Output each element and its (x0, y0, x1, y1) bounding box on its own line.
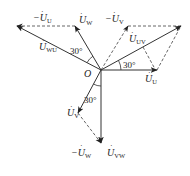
label-neg-u-v: · −UV (105, 8, 124, 25)
angle-label-vw: 30° (84, 95, 97, 105)
angle-arcs (87, 56, 121, 86)
angle-arc-vw-v (94, 84, 102, 86)
angle-arc-wu-w (87, 56, 93, 63)
svg-text:−UV: −UV (105, 13, 124, 25)
label-u-u: · UU (145, 68, 157, 85)
label-neg-u-u: · −UU (33, 7, 52, 24)
label-u-uv: · UUV (129, 28, 146, 45)
angle-label-wu: 30° (70, 46, 83, 56)
label-u-w: · UW (79, 9, 93, 26)
svg-text:UW: UW (79, 14, 93, 26)
label-u-vw: · UVW (107, 141, 126, 159)
svg-text:−UU: −UU (33, 12, 52, 24)
label-u-v: · UV (67, 102, 79, 119)
neg-u-w-dashed-line (78, 113, 101, 143)
label-u-wu: · UWU (39, 36, 57, 53)
svg-text:−UW: −UW (71, 147, 92, 159)
angle-label-uv: 30° (123, 60, 136, 70)
svg-text:UUV: UUV (129, 33, 146, 45)
phasor-diagram: 30° 30° 30° O · −UU · UW · UWU · −UV · U… (0, 0, 190, 176)
label-neg-u-w: · −UW (71, 141, 92, 159)
svg-text:UVW: UVW (107, 147, 126, 159)
inner-dashed-line (143, 47, 155, 69)
svg-text:UV: UV (67, 107, 79, 119)
origin-label: O (84, 68, 91, 79)
svg-text:UU: UU (145, 73, 157, 85)
angle-arc-uv-u (119, 61, 122, 71)
